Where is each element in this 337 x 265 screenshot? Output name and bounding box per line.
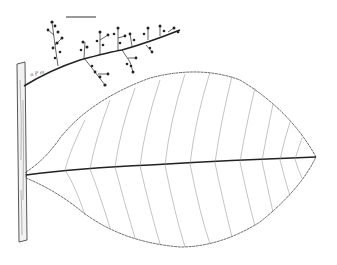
drawing [0,0,337,265]
leaf [26,72,316,247]
leaf-margin [26,72,316,247]
botanical-illustration: n P m [0,0,337,265]
twig [17,62,27,242]
midrib [26,157,316,175]
